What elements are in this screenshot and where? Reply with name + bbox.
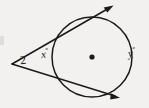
inner-arc-angle-label: x° bbox=[40, 48, 49, 61]
circle-center-dot bbox=[89, 54, 94, 59]
arrowhead-lower bbox=[110, 93, 120, 99]
outer-arc-angle-label: y° bbox=[127, 47, 136, 60]
tangent-ray-upper bbox=[12, 5, 114, 64]
arrowhead-upper bbox=[104, 5, 114, 12]
tangent-ray-lower bbox=[12, 64, 120, 99]
geometry-figure: 2 x° y° bbox=[0, 0, 149, 108]
vertex-angle-label: 2 bbox=[19, 54, 26, 67]
